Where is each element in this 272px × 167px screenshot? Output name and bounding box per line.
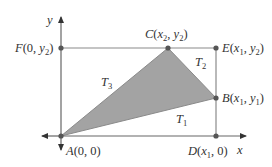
point-a <box>58 133 63 138</box>
point-d <box>213 133 218 138</box>
point-c <box>165 45 170 50</box>
point-e <box>213 45 218 50</box>
point-f <box>58 45 63 50</box>
x-axis-label: x <box>236 143 243 157</box>
triangle-abc <box>61 48 216 136</box>
label-t1: T1 <box>176 112 187 128</box>
label-d: D(x1, 0) <box>187 144 228 160</box>
label-t2: T2 <box>195 55 206 71</box>
y-axis-label: y <box>45 13 53 27</box>
label-f: F(0, y2) <box>14 41 53 57</box>
label-e: E(x1, y2) <box>221 41 264 57</box>
label-a: A(0, 0) <box>65 144 101 158</box>
label-b: B(x1, y1) <box>222 91 264 107</box>
label-t3: T3 <box>101 75 112 91</box>
point-b <box>213 95 218 100</box>
label-c: C(x2, y2) <box>145 27 188 43</box>
diagram-canvas: y x F(0, y2) C(x2, y2) E(x1, y2) B(x1, y… <box>0 0 272 167</box>
